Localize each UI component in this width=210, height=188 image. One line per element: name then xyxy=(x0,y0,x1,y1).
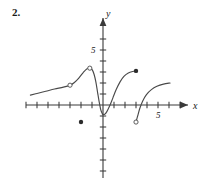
y-axis-arrowhead xyxy=(100,18,107,26)
open-circle-right-lower xyxy=(134,120,138,124)
axes-group xyxy=(26,18,188,178)
figure-page: 2. x y 55 xyxy=(0,0,210,188)
y-axis-label: y xyxy=(105,8,111,19)
open-circle-peak xyxy=(88,66,92,70)
open-circle-left-mid xyxy=(68,83,72,87)
x-axis-arrowhead xyxy=(180,102,188,109)
curve-branch-middle xyxy=(102,71,136,115)
x-tick-label: 5 xyxy=(156,110,161,120)
curve-branch-right xyxy=(136,83,170,122)
closed-endpoint-markers xyxy=(79,69,138,125)
solid-dot-endpoint xyxy=(134,69,138,73)
solid-dot-isolated xyxy=(79,120,83,124)
curve-branches xyxy=(30,68,170,122)
x-axis-label: x xyxy=(192,100,198,111)
graph-figure: x y 55 xyxy=(0,0,210,188)
y-tick-label: 5 xyxy=(91,45,96,55)
